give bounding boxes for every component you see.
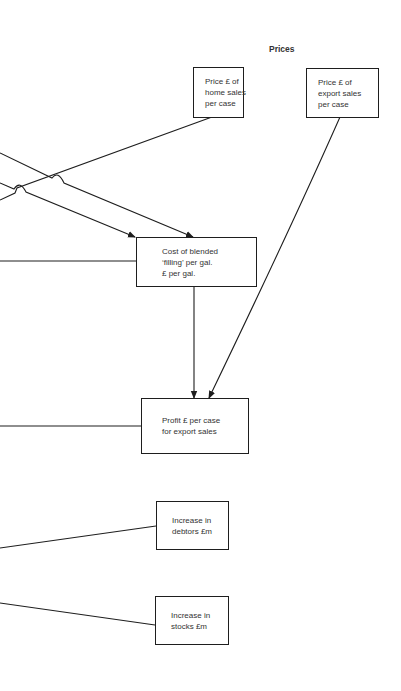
connector-upper-to-blend-cost [0,153,193,237]
node-export-price-line-3: per case [318,99,378,110]
node-export-price: Price £ of export sales per case [306,68,379,118]
node-export-price-line-1: Price £ of [318,77,378,88]
node-debtors-line-2: debtors £m [172,526,228,537]
node-export-profit-line-1: Profit £ per case [162,415,248,426]
node-stocks-line-1: Increase in [171,610,228,621]
node-home-price-line-2: home sales [205,87,243,98]
node-home-price-line-3: per case [205,98,243,109]
node-blend-cost-line-3: £ per gal. [162,268,256,279]
node-blend-cost: Cost of blended ‘filling’ per gal. £ per… [136,237,257,287]
node-debtors-line-1: Increase in [172,515,228,526]
node-debtors: Increase in debtors £m [156,501,229,550]
connector-stocks-left [0,603,155,625]
node-export-profit-line-2: for export sales [162,426,248,437]
node-home-price-line-1: Price £ of [205,76,243,87]
node-export-profit: Profit £ per case for export sales [141,398,249,454]
node-home-price: Price £ of home sales per case [193,67,244,118]
node-export-price-line-2: export sales [318,88,378,99]
section-title-prices: Prices [269,44,295,54]
node-stocks: Increase in stocks £m [155,596,229,645]
connector-home-price-out [0,117,212,200]
node-stocks-line-2: stocks £m [171,621,228,632]
connector-middle-to-blend-cost [0,183,135,237]
connector-debtors-left [0,526,156,548]
node-blend-cost-line-1: Cost of blended [162,246,256,257]
node-blend-cost-line-2: ‘filling’ per gal. [162,257,256,268]
